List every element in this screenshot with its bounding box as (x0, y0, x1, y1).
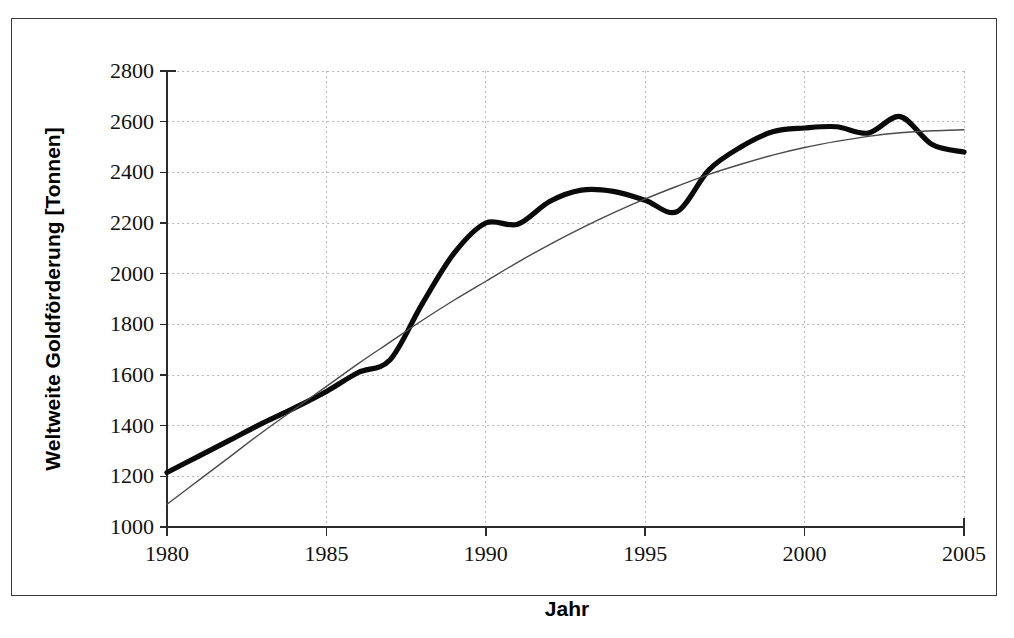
y-tick-label: 2800 (110, 58, 154, 84)
y-tick-label: 1800 (110, 311, 154, 337)
x-tick-label: 1980 (145, 541, 189, 567)
y-tick-label: 2200 (110, 210, 154, 236)
y-tick-label: 2400 (110, 159, 154, 185)
x-tick-label: 1995 (623, 541, 667, 567)
x-axis-title: Jahr (167, 597, 967, 621)
series-layer (167, 71, 964, 527)
y-tick-label: 2600 (110, 109, 154, 135)
y-tick-label: 2000 (110, 261, 154, 287)
x-tick-label: 1985 (304, 541, 348, 567)
x-tick-label: 2005 (942, 541, 986, 567)
y-tick-label: 1000 (110, 514, 154, 540)
y-axis-title: Weltweite Goldförderung [Tonnen] (36, 39, 70, 559)
x-tick-label: 2000 (783, 541, 827, 567)
y-tick-label: 1400 (110, 413, 154, 439)
series-path-0 (167, 116, 964, 472)
x-tick-label: 1990 (464, 541, 508, 567)
plot-area: 1000120014001600180020002200240026002800… (167, 71, 964, 527)
y-tick-label: 1200 (110, 463, 154, 489)
figure-frame: Weltweite Goldförderung [Tonnen] Jahr 10… (11, 18, 997, 596)
series-path-1 (167, 130, 964, 504)
y-tick-label: 1600 (110, 362, 154, 388)
